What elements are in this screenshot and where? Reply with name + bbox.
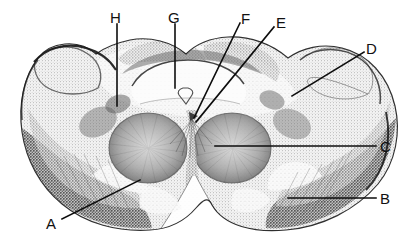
label-d[interactable]: D (366, 41, 377, 56)
leader-line-d (292, 52, 364, 96)
label-b[interactable]: B (380, 191, 390, 206)
leader-line-f (194, 23, 240, 118)
label-g[interactable]: G (168, 10, 180, 25)
label-a[interactable]: A (46, 216, 56, 231)
leader-line-e (196, 27, 274, 122)
leader-lines (0, 0, 410, 246)
figure-container: A B C D E F G H (0, 0, 410, 246)
leader-line-a (62, 180, 140, 219)
label-f[interactable]: F (241, 11, 250, 26)
label-e[interactable]: E (276, 15, 286, 30)
label-c[interactable]: C (380, 139, 391, 154)
label-h[interactable]: H (110, 10, 121, 25)
